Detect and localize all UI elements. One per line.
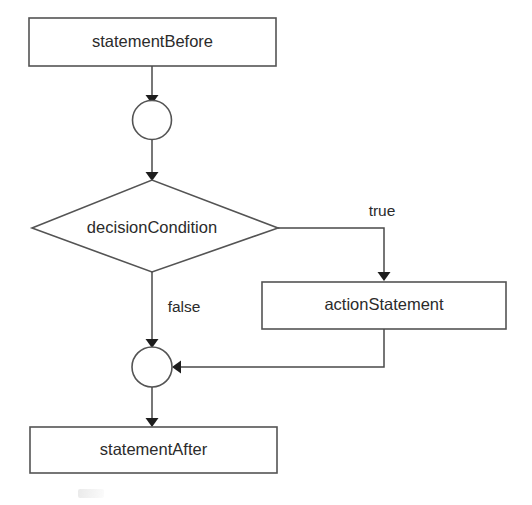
edge-decision-true: true	[278, 202, 395, 281]
edge-label-true: true	[369, 202, 396, 219]
action-statement-label: actionStatement	[324, 295, 444, 313]
node-decision-condition[interactable]: decisionCondition	[32, 180, 278, 272]
statement-before-label: statementBefore	[92, 32, 213, 50]
edge-before-to-merge-top	[146, 66, 159, 104]
decision-condition-label: decisionCondition	[87, 218, 217, 236]
node-statement-before[interactable]: statementBefore	[29, 18, 276, 66]
merge-node-bottom-circle	[132, 347, 172, 387]
node-statement-after[interactable]: statementAfter	[30, 427, 277, 473]
scan-artifact-smudge	[78, 489, 104, 498]
edge-merge-top-to-decision	[146, 140, 159, 182]
statement-after-label: statementAfter	[100, 440, 208, 458]
edge-action-to-merge-bottom-line	[177, 329, 384, 367]
arrowhead-left-icon	[172, 361, 181, 374]
node-merge-node-bottom[interactable]	[132, 347, 172, 387]
arrowhead-down-icon	[378, 272, 391, 281]
edge-decision-true-line	[278, 228, 384, 277]
arrowhead-down-icon	[146, 418, 159, 427]
node-action-statement[interactable]: actionStatement	[262, 282, 506, 329]
edge-label-false: false	[168, 298, 201, 315]
edge-action-to-merge-bottom	[172, 329, 384, 374]
edge-merge-bottom-to-after	[146, 387, 159, 427]
merge-node-top-circle	[133, 101, 172, 140]
flowchart-svg: statementBefore decisionCondition action…	[0, 0, 532, 505]
edge-decision-false: false	[146, 272, 201, 348]
node-merge-node-top[interactable]	[133, 101, 172, 140]
diagram-canvas: statementBefore decisionCondition action…	[0, 0, 532, 505]
